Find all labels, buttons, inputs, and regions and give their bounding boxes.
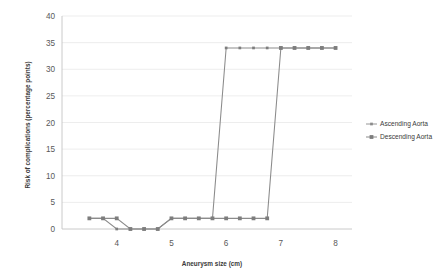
data-point [334,46,338,50]
data-point [266,47,269,50]
data-point [115,216,119,220]
data-point [142,227,146,231]
y-tick-label-5: 5 [50,198,55,207]
data-point [238,47,241,50]
data-point [170,216,174,220]
chart-plot-background [0,0,439,279]
x-tick-label-8: 8 [333,239,338,248]
data-point [306,46,310,50]
data-point [238,216,242,220]
y-tick-label-35: 35 [46,39,56,48]
data-point [197,216,201,220]
x-axis-title: Aneurysm size (cm) [182,260,242,268]
data-point [224,216,228,220]
legend-swatch-marker-0 [370,123,373,126]
data-point [252,216,256,220]
data-point [156,227,160,231]
legend-label-0: Ascending Aorta [380,120,428,128]
y-tick-label-25: 25 [46,92,56,101]
data-point [115,228,118,231]
data-point [279,46,283,50]
data-point [265,216,269,220]
x-tick-label-7: 7 [279,239,284,248]
x-tick-label-4: 4 [114,239,119,248]
risk-vs-aneurysm-size-line-chart: 0510152025303540 45678 Ascending AortaDe… [0,0,439,279]
data-point [183,216,187,220]
data-point [129,227,133,231]
data-point [293,46,297,50]
data-point [252,47,255,50]
y-tick-label-10: 10 [46,172,56,181]
data-point [225,47,228,50]
y-axis-title: Risk of complications (percentage points… [24,61,32,188]
legend-swatch-marker-1 [370,135,374,139]
chart-container: 0510152025303540 45678 Ascending AortaDe… [0,0,439,279]
y-tick-label-30: 30 [46,65,56,74]
y-tick-label-40: 40 [46,12,56,21]
data-point [87,216,91,220]
legend-label-1: Descending Aorta [380,133,432,141]
x-tick-label-6: 6 [224,239,229,248]
data-point [101,216,105,220]
y-tick-label-0: 0 [50,225,55,234]
data-point [320,46,324,50]
data-point [211,216,215,220]
y-tick-label-20: 20 [46,119,56,128]
x-tick-label-5: 5 [169,239,174,248]
y-tick-label-15: 15 [46,145,56,154]
